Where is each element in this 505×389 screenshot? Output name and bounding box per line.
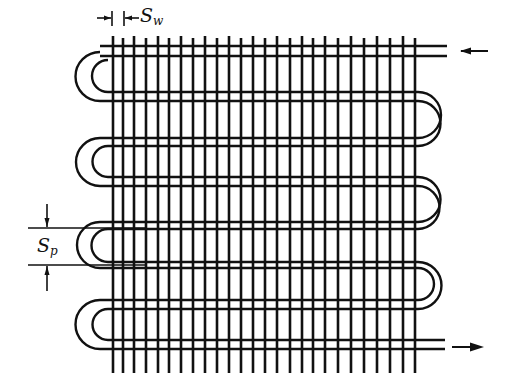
left-bend-2-inner: [93, 146, 109, 177]
outlet-right-arrow-icon: [470, 343, 484, 352]
vertical-wires: [113, 36, 415, 373]
arrow-down-icon: [45, 218, 50, 227]
wire-spacing-subscript: w: [153, 14, 163, 28]
tube-pitch-subscript: p: [50, 244, 58, 258]
flow-arrows: [452, 48, 488, 352]
right-bend-3-inner-arc: [418, 268, 434, 300]
arrow-right-icon: [104, 16, 111, 21]
left-bend-3-outer: [77, 222, 100, 268]
left-bend-1-outer: [76, 52, 101, 101]
condenser-coil-diagram: [0, 0, 505, 389]
tube-pitch-label: Sp: [37, 236, 58, 257]
inlet-left-arrow-icon: [460, 48, 471, 55]
coil-drawing: [28, 11, 488, 373]
wire-spacing-label: Sw: [140, 6, 163, 27]
arrow-left-icon: [125, 16, 132, 21]
wire-spacing-dimension: [97, 11, 139, 26]
right-bend-1-outer: [418, 92, 441, 138]
left-bend-4-inner: [93, 309, 109, 340]
tube-pitch-symbol: S: [37, 234, 50, 256]
left-bend-2-outer: [76, 138, 100, 186]
wire-spacing-symbol: S: [140, 4, 153, 26]
left-bend-1-inner: [92, 60, 108, 92]
arrow-up-icon: [45, 266, 50, 275]
left-bend-3-inner: [92, 229, 108, 262]
left-bend-4-outer: [76, 300, 101, 349]
